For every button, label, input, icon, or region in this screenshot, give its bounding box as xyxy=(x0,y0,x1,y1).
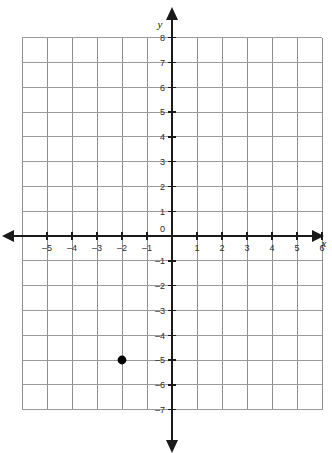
y-tick-label: 3 xyxy=(160,157,165,167)
y-tick-label: 2 xyxy=(160,182,165,192)
y-tick-label: 6 xyxy=(160,83,165,93)
origin-label: 0 xyxy=(160,224,165,234)
y-tick-label: –4 xyxy=(155,331,165,341)
y-tick-label: –5 xyxy=(155,355,165,365)
plotted-points xyxy=(118,356,127,365)
x-tick-label: 4 xyxy=(269,243,274,253)
y-tick-label: 7 xyxy=(160,58,165,68)
y-tick-label: –1 xyxy=(155,256,165,266)
y-tick-label: 1 xyxy=(160,207,165,217)
coordinate-grid-svg: –5–4–3–2–112345687654321–1–2–3–4–5–6–70 … xyxy=(0,0,332,453)
x-tick-label: 2 xyxy=(219,243,224,253)
plotted-point xyxy=(118,356,127,365)
x-tick-label: –4 xyxy=(67,243,77,253)
x-tick-label: 1 xyxy=(194,243,199,253)
y-tick-label: 5 xyxy=(160,107,165,117)
x-tick-label: –1 xyxy=(142,243,152,253)
y-tick-label: 4 xyxy=(160,132,165,142)
y-tick-label: –6 xyxy=(155,380,165,390)
x-tick-label: 5 xyxy=(294,243,299,253)
y-tick-label: –7 xyxy=(155,405,165,415)
y-axis-label: y xyxy=(157,18,163,30)
y-tick-label: 8 xyxy=(160,33,165,43)
coordinate-plane-figure: –5–4–3–2–112345687654321–1–2–3–4–5–6–70 … xyxy=(0,0,332,453)
y-tick-label: –3 xyxy=(155,306,165,316)
x-tick-label: 3 xyxy=(244,243,249,253)
x-tick-label: –3 xyxy=(92,243,102,253)
x-axis-label: x xyxy=(321,237,327,249)
y-tick-label: –2 xyxy=(155,281,165,291)
x-tick-label: –5 xyxy=(42,243,52,253)
x-tick-label: –2 xyxy=(117,243,127,253)
